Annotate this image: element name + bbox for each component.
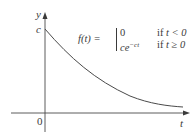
case-2-exponent: −ct (129, 41, 139, 49)
condition-text: t ≥ 0 (166, 39, 185, 50)
x-axis-label: t (180, 118, 183, 129)
if-word: if (157, 39, 163, 50)
y-axis-label: y (36, 9, 41, 20)
case-2-base: ce (120, 42, 129, 53)
if-word: if (157, 27, 163, 38)
case-2-condition: if t ≥ 0 (157, 39, 185, 51)
y-intercept-label: c (36, 24, 41, 35)
case-1-value: 0 (120, 27, 125, 39)
y-axis-arrow-icon (43, 12, 48, 19)
case-2-value: ce−ct (120, 39, 139, 54)
case-brace (116, 28, 117, 51)
function-graph-figure: y c 0 t f(t) = 0 if t < 0 ce−ct if t ≥ 0 (0, 0, 195, 139)
formula-lhs: f(t) = (78, 33, 101, 45)
case-1-condition: if t < 0 (157, 27, 187, 39)
condition-text: t < 0 (166, 27, 187, 38)
origin-label: 0 (37, 116, 43, 127)
graph-canvas (0, 0, 195, 139)
x-axis-arrow-icon (183, 111, 190, 116)
